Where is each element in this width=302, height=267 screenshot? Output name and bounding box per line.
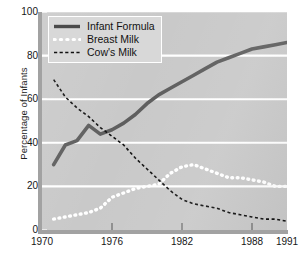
chart-legend: Infant Formula Breast Milk Cow's Milk [48,16,162,63]
legend-label: Infant Formula [87,21,155,32]
legend-swatch-dashed-line-icon [53,47,81,58]
legend-label: Breast Milk [87,34,139,45]
x-axis-tick-label: 1970 [22,236,62,247]
y-axis-tick-label: 60 [4,94,38,104]
legend-swatch-dotted-line-icon [53,34,81,45]
y-axis-tick-label: 100 [4,7,38,17]
y-axis-tick-label: 0 [4,225,38,235]
y-axis-tick-label: 40 [4,138,38,148]
series-line-cow-s-milk [54,80,287,222]
legend-swatch-solid-line-icon [53,21,81,32]
legend-item-cows-milk: Cow's Milk [53,46,155,59]
infant-feeding-line-chart: Percentage of Infants 100806040200 19701… [0,0,302,267]
legend-item-infant-formula: Infant Formula [53,20,155,33]
y-axis-tick-labels: 100806040200 [0,0,38,267]
legend-item-breast-milk: Breast Milk [53,33,155,46]
x-axis-tick-label: 1988 [232,236,272,247]
legend-label: Cow's Milk [87,47,137,58]
x-axis-tick-label: 1991 [267,236,302,247]
y-axis-tick-label: 80 [4,51,38,61]
series-line-breast-milk [54,165,287,220]
y-axis-tick-label: 20 [4,181,38,191]
x-axis-spine [38,230,288,234]
x-axis-tick-label: 1976 [92,236,132,247]
x-axis-tick-label: 1982 [162,236,202,247]
